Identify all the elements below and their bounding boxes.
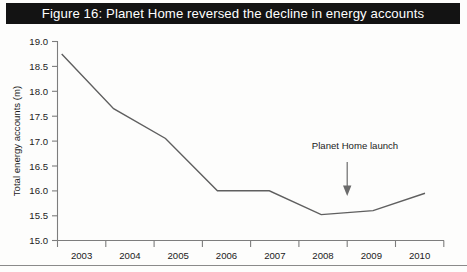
y-tick-label-15-5: 15.5 — [29, 210, 48, 221]
line-chart: 19.0 18.5 18.0 17.5 17.0 16.5 16.0 15.5 … — [0, 24, 467, 272]
x-tick-label-2007: 2007 — [264, 250, 285, 261]
x-tick-label-2005: 2005 — [168, 250, 189, 261]
x-tick-label-2003: 2003 — [71, 250, 92, 261]
figure-container: Figure 16: Planet Home reversed the decl… — [0, 0, 467, 272]
y-tick-label-17-5: 17.5 — [29, 111, 48, 122]
x-axis-tick-labels: 2003 2004 2005 2006 2007 2008 2009 2010 — [71, 250, 430, 261]
y-tick-label-18-5: 18.5 — [29, 61, 48, 72]
chart-plot-area: 19.0 18.5 18.0 17.5 17.0 16.5 16.0 15.5 … — [0, 24, 467, 272]
x-axis-ticks — [58, 241, 444, 248]
x-tick-label-2006: 2006 — [216, 250, 237, 261]
x-tick-label-2008: 2008 — [312, 250, 333, 261]
series-line-total-energy-accounts — [62, 54, 425, 215]
y-tick-label-18-0: 18.0 — [29, 86, 48, 97]
figure-title-band: Figure 16: Planet Home reversed the decl… — [6, 3, 460, 24]
x-tick-label-2004: 2004 — [119, 250, 141, 261]
y-tick-label-15-0: 15.0 — [29, 235, 48, 246]
y-tick-label-19-0: 19.0 — [29, 36, 48, 47]
y-tick-label-16-5: 16.5 — [29, 161, 48, 172]
figure-title: Figure 16: Planet Home reversed the decl… — [42, 6, 424, 21]
y-tick-label-16-0: 16.0 — [29, 185, 48, 196]
y-tick-label-17-0: 17.0 — [29, 136, 48, 147]
bottom-rule — [0, 265, 467, 266]
annotation-label: Planet Home launch — [312, 140, 398, 151]
y-axis-title: Total energy accounts (m) — [11, 86, 22, 196]
y-axis-tick-labels: 19.0 18.5 18.0 17.5 17.0 16.5 16.0 15.5 … — [29, 36, 48, 246]
annotation-arrow-head-icon — [343, 186, 351, 197]
annotation-planet-home-launch: Planet Home launch — [312, 140, 398, 196]
x-tick-label-2010: 2010 — [409, 250, 430, 261]
y-axis-ticks — [52, 42, 58, 241]
x-tick-label-2009: 2009 — [361, 250, 382, 261]
